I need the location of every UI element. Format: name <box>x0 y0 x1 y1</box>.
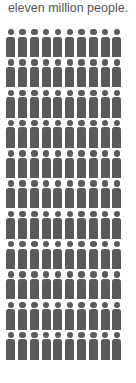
person-head <box>114 332 120 338</box>
person-head <box>67 120 73 126</box>
person-icon <box>18 120 30 150</box>
person-head <box>78 271 84 277</box>
person-head <box>67 29 73 35</box>
person-body <box>77 158 86 179</box>
person-body <box>53 97 62 118</box>
person-head <box>43 332 49 338</box>
person-icon <box>18 180 30 210</box>
person-head <box>55 180 61 186</box>
person-head <box>114 302 120 308</box>
person-icon <box>112 29 124 59</box>
person-body <box>30 188 39 209</box>
person-body <box>112 37 121 58</box>
person-head <box>31 332 37 338</box>
person-icon <box>112 302 124 332</box>
person-head <box>90 211 96 217</box>
person-head <box>43 150 49 156</box>
person-icon <box>77 120 89 150</box>
person-body <box>112 279 121 300</box>
person-head <box>114 120 120 126</box>
person-icon <box>30 271 42 301</box>
person-body <box>112 218 121 239</box>
person-icon <box>112 332 124 362</box>
person-body <box>77 67 86 88</box>
person-head <box>102 29 108 35</box>
person-body <box>53 218 62 239</box>
person-body <box>42 127 51 148</box>
person-icon <box>41 332 53 362</box>
person-head <box>67 241 73 247</box>
person-icon <box>18 332 30 362</box>
person-icon <box>100 332 112 362</box>
person-body <box>42 67 51 88</box>
person-body <box>89 127 98 148</box>
person-body <box>77 188 86 209</box>
person-icon <box>65 180 77 210</box>
person-body <box>89 249 98 270</box>
person-body <box>101 67 110 88</box>
person-body <box>77 97 86 118</box>
person-head <box>78 241 84 247</box>
person-head <box>8 90 14 96</box>
person-body <box>18 188 27 209</box>
person-body <box>77 279 86 300</box>
person-icon <box>89 302 101 332</box>
person-body <box>65 37 74 58</box>
person-body <box>101 249 110 270</box>
person-body <box>6 97 15 118</box>
person-head <box>90 90 96 96</box>
person-body <box>65 188 74 209</box>
person-body <box>65 218 74 239</box>
pictograph-row <box>6 59 126 89</box>
person-head <box>31 150 37 156</box>
person-head <box>19 120 25 126</box>
person-body <box>77 309 86 330</box>
person-body <box>77 37 86 58</box>
person-head <box>31 29 37 35</box>
person-icon <box>65 332 77 362</box>
person-body <box>42 339 51 360</box>
person-body <box>18 97 27 118</box>
pictograph-row <box>6 241 126 271</box>
person-body <box>42 188 51 209</box>
person-body <box>112 158 121 179</box>
person-head <box>43 180 49 186</box>
person-head <box>102 180 108 186</box>
person-body <box>101 309 110 330</box>
person-body <box>112 97 121 118</box>
person-icon <box>6 29 18 59</box>
person-body <box>65 339 74 360</box>
person-icon <box>65 120 77 150</box>
person-head <box>55 120 61 126</box>
person-icon <box>18 59 30 89</box>
person-head <box>55 29 61 35</box>
person-head <box>55 59 61 65</box>
person-body <box>30 67 39 88</box>
person-icon <box>65 29 77 59</box>
person-icon <box>89 211 101 241</box>
person-head <box>8 120 14 126</box>
person-icon <box>53 59 65 89</box>
person-icon <box>77 180 89 210</box>
person-body <box>89 309 98 330</box>
person-body <box>18 37 27 58</box>
person-head <box>114 90 120 96</box>
person-head <box>19 211 25 217</box>
person-body <box>112 309 121 330</box>
person-body <box>42 37 51 58</box>
person-icon <box>53 241 65 271</box>
person-body <box>77 127 86 148</box>
person-icon <box>41 302 53 332</box>
pictograph-row <box>6 302 126 332</box>
person-body <box>89 67 98 88</box>
person-head <box>8 271 14 277</box>
person-icon <box>100 120 112 150</box>
person-body <box>30 279 39 300</box>
person-head <box>78 150 84 156</box>
person-body <box>18 158 27 179</box>
person-body <box>89 188 98 209</box>
person-head <box>31 120 37 126</box>
person-head <box>19 59 25 65</box>
person-icon <box>53 211 65 241</box>
person-icon <box>77 271 89 301</box>
